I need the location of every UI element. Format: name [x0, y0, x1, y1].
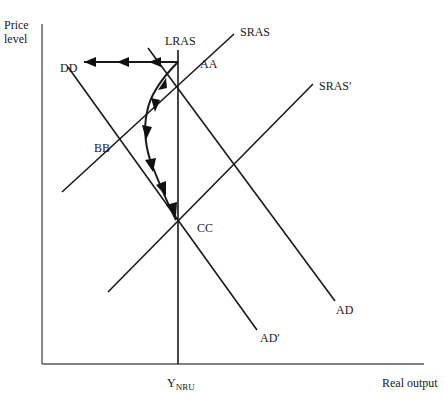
point-aa-label: AA: [200, 57, 218, 71]
ad-curve: [148, 48, 335, 301]
sras-label: SRAS: [240, 25, 270, 39]
x-axis-label: Real output: [382, 376, 438, 390]
arrow-icon: [84, 57, 96, 67]
ad-prime-curve: [68, 67, 257, 330]
point-bb-label: BB: [94, 141, 110, 155]
ad-label: AD: [336, 303, 354, 317]
lras-label: LRAS: [165, 34, 196, 48]
point-dd-label: DD: [60, 61, 78, 75]
as-ad-diagram: LRAS SRAS SRAS′ AD AD′ AA BB CC DD YNRU …: [0, 0, 444, 399]
sras-prime-label: SRAS′: [319, 79, 352, 93]
y-nru-main: Y: [167, 376, 176, 390]
arrow-icon: [117, 57, 129, 67]
y-nru-sub: NRU: [176, 382, 196, 392]
sras-prime-curve: [108, 84, 313, 292]
y-nru-label: YNRU: [167, 376, 195, 392]
point-cc-label: CC: [197, 221, 213, 235]
ad-prime-label: AD′: [260, 331, 280, 345]
arrow-icon: [156, 181, 166, 196]
arrow-icon: [142, 125, 152, 140]
